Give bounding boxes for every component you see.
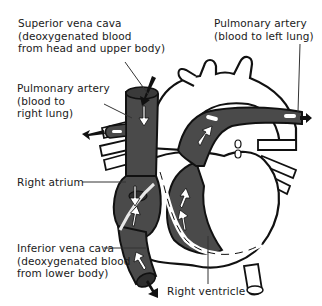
valve-mark xyxy=(235,140,241,148)
heart-diagram: Superior vena cava (deoxygenated blood f… xyxy=(0,0,322,306)
label-pulmonary-artery-right: Pulmonary artery (blood to right lung) xyxy=(17,82,110,120)
label-right-atrium: Right atrium xyxy=(17,176,84,189)
aortic-arch xyxy=(150,57,296,150)
label-pulmonary-artery-left: Pulmonary artery (blood to left lung) xyxy=(214,17,314,42)
label-inferior-vena-cava: Inferior vena cava (deoxygenated blood f… xyxy=(17,242,131,280)
label-right-ventricle: Right ventricle xyxy=(167,285,245,298)
label-superior-vena-cava: Superior vena cava (deoxygenated blood f… xyxy=(18,17,165,55)
